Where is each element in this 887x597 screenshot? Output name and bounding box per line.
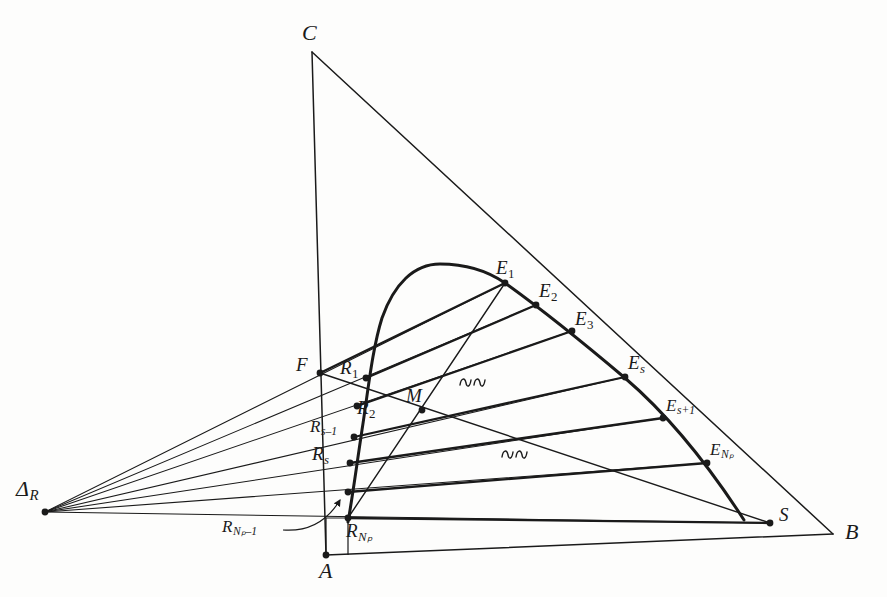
raffinate-dot-R1 <box>363 375 370 382</box>
extract-label-E1-subscript: 1 <box>508 266 515 281</box>
extract-label-ENp-main: E <box>710 440 720 459</box>
extract-label-E2: E2 <box>539 281 558 304</box>
raffinate-label-Rs-subscript: s <box>324 452 330 467</box>
vertex-label-C-main: C <box>302 20 317 45</box>
difference-point-dot <box>42 509 49 516</box>
extract-label-E2-main: E <box>539 280 551 301</box>
raffinate-label-RNp-1-subscript: Nₚ–1 <box>232 525 257 538</box>
raffinate-label-RNp: RNₚ <box>346 521 373 544</box>
raffinate-label-RNp-1-main: R <box>222 517 232 536</box>
extract-label-ENp: ENₚ <box>710 441 734 461</box>
raffinate-label-Rs: Rs <box>312 444 329 467</box>
extract-label-E3-main: E <box>575 308 587 329</box>
vertex-label-B: B <box>845 521 858 543</box>
vertex-label-B-main: B <box>845 519 858 544</box>
point-label-M-main: M <box>406 385 422 406</box>
raffinate-label-RNp-1: RNₚ–1 <box>222 518 257 538</box>
raffinate-label-R2-main: R <box>357 397 369 418</box>
extract-label-Es: Es <box>628 353 645 376</box>
raffinate-label-Rs-1-main: R <box>310 417 320 436</box>
extract-label-Es+1: Es+1 <box>666 397 695 417</box>
extract-label-E3-subscript: 3 <box>587 317 594 332</box>
vertex-label-A: A <box>319 560 332 582</box>
tie-RNp-S <box>348 518 770 523</box>
point-markers-group <box>42 280 774 559</box>
pointer-arrow-group <box>283 500 340 530</box>
raffinate-label-Rs-main: R <box>312 443 324 464</box>
extract-label-Es+1-main: E <box>666 396 676 415</box>
point-label-S: S <box>779 505 789 524</box>
raffinate-dot-RNp-1 <box>345 489 352 496</box>
vertex-label-A-main: A <box>319 558 332 583</box>
raffinate-label-RNp-main: R <box>346 520 358 541</box>
triangle-edges-group <box>312 52 833 555</box>
edge-CA <box>312 52 326 555</box>
edge-AB <box>326 534 833 555</box>
base-box-group <box>326 518 348 555</box>
difference-point-label-subscript: R <box>29 487 39 503</box>
raffinate-label-F: F <box>296 355 308 374</box>
difference-point-label-main: Δ <box>16 476 29 501</box>
extract-label-E3: E3 <box>575 309 594 332</box>
tie-Rs-Es1 <box>350 418 663 463</box>
raffinate-label-R1-subscript: 1 <box>352 366 359 381</box>
point-label-M: M <box>406 386 422 405</box>
extract-dot-E1 <box>502 280 509 287</box>
tie-Rs1-Es <box>354 377 625 437</box>
raffinate-label-R2: R2 <box>357 398 376 421</box>
raffinate-label-Rs-1: Rs–1 <box>310 418 337 438</box>
extract-label-Es+1-subscript: s+1 <box>676 404 695 417</box>
raffinate-label-Rs-1-subscript: s–1 <box>320 425 337 438</box>
diagram-canvas: CABΔRFR1R2Rs–1RsRNₚ–1RNₚE1E2E3EsEs+1ENₚM… <box>0 0 887 597</box>
extract-label-ENp-subscript: Nₚ <box>720 448 733 461</box>
point-dot-M <box>419 407 426 414</box>
raffinate-label-R1: R1 <box>340 358 359 381</box>
extract-label-Es-subscript: s <box>640 361 646 376</box>
raffinate-label-R2-subscript: 2 <box>369 406 376 421</box>
raffinate-label-RNp-subscript: Nₚ <box>358 529 373 544</box>
ellipsis-break-upper <box>460 379 485 386</box>
point-dot-S <box>767 520 774 527</box>
raffinate-dot-F <box>317 370 324 377</box>
tie-R1-E2 <box>366 305 536 378</box>
extract-label-E1-main: E <box>496 257 508 278</box>
raffinate-label-R1-main: R <box>340 357 352 378</box>
edge-CB <box>312 52 833 534</box>
raffinate-dot-Rs-1 <box>351 434 358 441</box>
raffinate-label-F-main: F <box>296 354 308 375</box>
box-near-A <box>326 518 348 555</box>
extract-label-E2-subscript: 2 <box>551 289 558 304</box>
difference-point-label: ΔR <box>16 478 39 503</box>
point-label-S-main: S <box>779 504 789 525</box>
extract-label-E1: E1 <box>496 258 515 281</box>
ellipsis-break-lower <box>502 451 527 458</box>
tie-RNp1-ENp <box>348 463 707 492</box>
vertex-label-C: C <box>302 22 317 44</box>
arrow-to-RNp-minus-1 <box>283 500 340 530</box>
ternary-diagram-svg <box>0 0 887 597</box>
raffinate-dot-Rs <box>347 460 354 467</box>
extract-label-Es-main: E <box>628 352 640 373</box>
